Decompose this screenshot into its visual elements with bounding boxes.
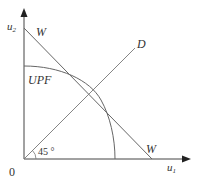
y-axis-arrow-icon (21, 8, 28, 17)
welfare-label-bottom: W (146, 142, 157, 156)
x-axis-arrow-icon (182, 156, 191, 163)
angle-label: 45 ° (38, 146, 55, 157)
diagonal-line (24, 48, 135, 159)
welfare-label-top: W (36, 25, 47, 39)
diagonal-label: D (136, 37, 146, 51)
upf-label: UPF (28, 73, 52, 87)
y-axis-label: u2 (7, 20, 17, 34)
angle-arc (33, 151, 37, 160)
x-axis-label: u1 (167, 161, 176, 175)
origin-label: 0 (9, 165, 15, 179)
upf-diagram: u2 W D UPF 45 ° W u1 0 (0, 0, 198, 181)
